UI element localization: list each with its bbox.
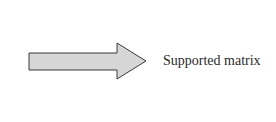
supported-matrix-label: Supported matrix (163, 52, 261, 70)
